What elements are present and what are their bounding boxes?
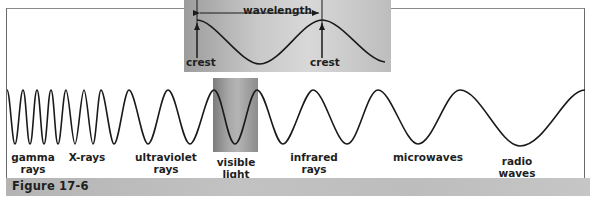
- label-gamma-rays: gamma rays: [10, 151, 56, 175]
- label-infrared-rays: infrared rays: [288, 151, 340, 175]
- label-ultraviolet-rays: ultraviolet rays: [134, 151, 198, 175]
- spectrum-wave: [7, 90, 585, 146]
- inset-wave: [197, 20, 385, 64]
- label-x-rays: X-rays: [64, 151, 110, 163]
- label-visible-light: visible light: [212, 156, 260, 180]
- crest-label-right: crest: [310, 56, 340, 68]
- figure-caption: Figure 17-6: [12, 179, 89, 193]
- label-radio-waves: radio waves: [492, 155, 542, 179]
- label-microwaves: microwaves: [388, 151, 468, 163]
- crest-label-left: crest: [186, 56, 216, 68]
- caption-bar: Figure 17-6: [6, 178, 590, 196]
- wavelength-label: wavelength: [243, 4, 312, 16]
